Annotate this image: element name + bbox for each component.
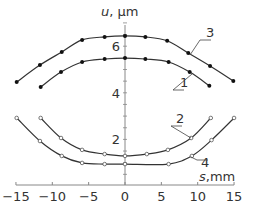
open-marker: [103, 152, 107, 156]
filled-marker: [165, 39, 169, 43]
x-tick-label: −15: [2, 189, 29, 204]
chart: −15−10−5051015246 1234 u, µm s,mm: [0, 0, 253, 209]
filled-marker: [39, 85, 43, 89]
filled-marker: [103, 35, 107, 39]
leader-line: [190, 40, 211, 55]
open-marker: [80, 161, 84, 165]
open-marker: [123, 162, 127, 166]
filled-marker: [80, 60, 84, 64]
curve-label-2: 2: [176, 111, 184, 126]
x-tick-label: 5: [157, 189, 165, 204]
curve-line: [41, 118, 211, 156]
x-tick-label: 10: [189, 189, 206, 204]
x-tick-label: −10: [39, 189, 66, 204]
curve-label-4: 4: [201, 155, 209, 170]
x-tick-label: 15: [226, 189, 243, 204]
filled-marker: [103, 57, 107, 61]
filled-marker: [167, 60, 171, 64]
filled-marker: [208, 64, 212, 68]
open-marker: [210, 138, 214, 142]
filled-marker: [59, 70, 63, 74]
open-marker: [123, 154, 127, 158]
y-tick-label: 4: [112, 86, 120, 101]
filled-marker: [143, 35, 147, 39]
filled-marker: [15, 80, 19, 84]
x-tick-label: −5: [79, 189, 98, 204]
open-marker: [232, 116, 236, 120]
curve-label-3: 3: [206, 25, 214, 40]
filled-marker: [80, 38, 84, 42]
filled-marker: [60, 50, 64, 54]
open-marker: [103, 162, 107, 166]
open-marker: [80, 148, 84, 152]
open-marker: [145, 152, 149, 156]
open-marker: [189, 136, 193, 140]
leader-line: [171, 126, 191, 138]
filled-marker: [186, 51, 190, 55]
y-tick-label: 2: [112, 132, 120, 147]
open-marker: [166, 148, 170, 152]
y-axis-title: u, µm: [101, 4, 138, 19]
open-marker: [60, 154, 64, 158]
open-marker: [167, 162, 171, 166]
curve-label-1: 1: [180, 75, 188, 90]
filled-marker: [123, 34, 127, 38]
open-marker: [15, 116, 19, 120]
open-marker: [38, 139, 42, 143]
open-marker: [209, 116, 213, 120]
x-axis-title: s,mm: [199, 169, 235, 184]
filled-marker: [143, 57, 147, 61]
series-2: [39, 116, 213, 158]
x-tick-label: 0: [121, 189, 129, 204]
filled-marker: [38, 63, 42, 67]
y-tick-label: 6: [112, 39, 120, 54]
open-marker: [39, 116, 43, 120]
filled-marker: [231, 79, 235, 83]
open-marker: [59, 136, 63, 140]
filled-marker: [188, 70, 192, 74]
filled-marker: [123, 56, 127, 60]
chart-svg: −15−10−5051015246 1234 u, µm s,mm: [0, 0, 253, 209]
filled-marker: [207, 84, 211, 88]
